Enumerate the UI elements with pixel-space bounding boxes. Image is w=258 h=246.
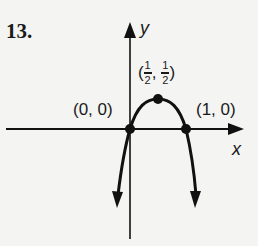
vertex-label: ( 1 2 , 1 2 )	[138, 60, 175, 86]
fraction-numerator: 1	[162, 60, 168, 71]
x-intercept-point	[181, 124, 191, 134]
vertex-y-fraction: 1 2	[161, 60, 169, 86]
problem-number: 13.	[6, 19, 32, 44]
origin-point	[125, 124, 135, 134]
left-curve-arrow-icon	[112, 191, 123, 208]
fraction-denominator: 2	[145, 75, 151, 86]
x-intercept-label: (1, 0)	[196, 100, 236, 120]
fraction-denominator: 2	[162, 75, 168, 86]
vertex-point	[153, 94, 163, 104]
y-axis-arrow-icon	[124, 22, 136, 38]
vertex-x-fraction: 1 2	[144, 60, 152, 86]
x-axis-label: x	[232, 139, 241, 160]
graph	[0, 0, 258, 246]
x-axis-arrow-icon	[228, 123, 244, 135]
vertex-label-close: )	[169, 63, 175, 83]
origin-label: (0, 0)	[73, 100, 113, 120]
right-curve-arrow-icon	[190, 191, 201, 208]
fraction-numerator: 1	[145, 60, 151, 71]
y-axis-label: y	[140, 18, 149, 39]
vertex-label-sep: ,	[152, 63, 157, 83]
